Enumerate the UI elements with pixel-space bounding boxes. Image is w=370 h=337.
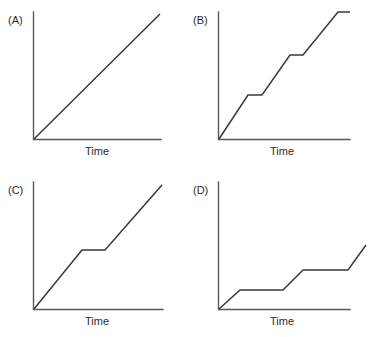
panel-d-label: (D) xyxy=(193,184,208,196)
panel-c-curve xyxy=(34,185,162,309)
panel-c-xaxis-title: Time xyxy=(85,315,109,327)
panel-b-xaxis-title: Time xyxy=(270,145,294,157)
panel-d-axes xyxy=(219,182,351,310)
panel-b-label: (B) xyxy=(193,14,208,26)
panel-c-axes xyxy=(34,182,164,310)
panel-d-curve xyxy=(219,245,366,309)
panel-a: (A) Time xyxy=(0,0,185,168)
panel-a-xaxis-title: Time xyxy=(85,145,109,157)
panel-a-label: (A) xyxy=(8,14,23,26)
panel-d-xaxis-title: Time xyxy=(270,315,294,327)
panel-c-label: (C) xyxy=(8,184,23,196)
panel-d: (D) Time xyxy=(185,168,370,336)
figure-grid: (A) Time (B) Time (C) Time (D) Time xyxy=(0,0,370,337)
panel-b-axes xyxy=(219,12,351,140)
panel-c: (C) Time xyxy=(0,168,185,336)
panel-a-curve xyxy=(34,14,160,139)
panel-b: (B) Time xyxy=(185,0,370,168)
panel-b-curve xyxy=(219,12,350,139)
